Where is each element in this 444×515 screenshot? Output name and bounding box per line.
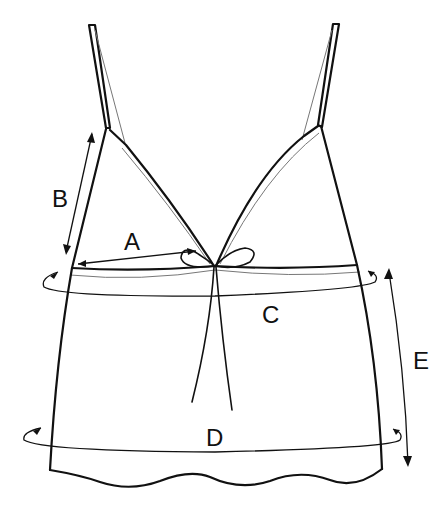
label-a: A — [124, 228, 140, 255]
bodice-sides — [72, 126, 357, 268]
measure-c-loop — [43, 271, 376, 296]
camisole-diagram: A B C D E — [0, 0, 444, 515]
wavy-hem — [50, 469, 382, 487]
underbust-band — [70, 265, 360, 278]
label-b: B — [52, 185, 68, 212]
label-d: D — [206, 424, 223, 451]
label-c: C — [262, 301, 279, 328]
measure-e-arrow — [384, 268, 412, 467]
left-strap — [89, 25, 125, 143]
label-e: E — [413, 347, 429, 374]
right-strap — [302, 24, 339, 140]
bodice-neckline — [110, 126, 319, 266]
